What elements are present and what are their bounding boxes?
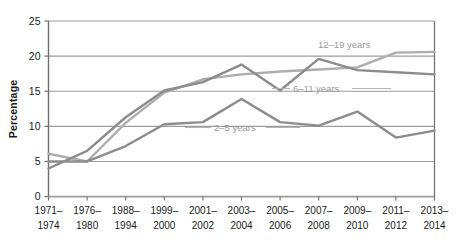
x-tick-label-line1: 2001– xyxy=(189,205,217,216)
x-tick-label-line1: 2005– xyxy=(266,205,294,216)
x-tick-label-line1: 2013– xyxy=(421,205,449,216)
x-tick-label-line1: 2011– xyxy=(382,205,410,216)
x-tick-label-line2: 2008 xyxy=(308,220,331,231)
x-tick-label-line1: 2009– xyxy=(343,205,371,216)
x-tick-label-line2: 2000 xyxy=(153,220,176,231)
x-tick-label-line1: 1988– xyxy=(112,205,140,216)
x-tick-label-line1: 2003– xyxy=(228,205,256,216)
x-tick-label-line2: 2012 xyxy=(385,220,408,231)
y-tick-label: 15 xyxy=(29,85,41,97)
y-tick-label: 20 xyxy=(29,50,41,62)
y-tick-label: 25 xyxy=(29,15,41,27)
series-label-12-19-years: 12–19 years xyxy=(318,39,371,50)
x-tick-label-line2: 2004 xyxy=(230,220,253,231)
x-tick-label-line1: 1999– xyxy=(150,205,178,216)
y-axis-title: Percentage xyxy=(7,80,19,139)
x-tick-label-line2: 2010 xyxy=(346,220,369,231)
x-tick-label-line2: 1974 xyxy=(37,220,60,231)
x-tick-label-line2: 1994 xyxy=(115,220,138,231)
chart-container: Percentage 0510152025 12–19 years6–11 ye… xyxy=(0,0,456,251)
series-label-2-5-years: 2–5 years xyxy=(214,122,256,133)
x-tick-label-line2: 2002 xyxy=(192,220,215,231)
line-chart: Percentage 0510152025 12–19 years6–11 ye… xyxy=(0,0,456,251)
x-tick-label-line2: 2006 xyxy=(269,220,292,231)
x-tick-label-line2: 1980 xyxy=(76,220,99,231)
y-tick-label: 5 xyxy=(35,155,41,167)
y-tick-label: 10 xyxy=(29,120,41,132)
x-tick-label-line2: 2014 xyxy=(423,220,446,231)
series-label-6-11-years: 6–11 years xyxy=(293,83,340,94)
y-tick-label: 0 xyxy=(35,190,41,202)
x-tick-label-line1: 1971– xyxy=(35,205,63,216)
x-tick-label-line1: 2007– xyxy=(305,205,333,216)
x-tick-label-line1: 1976– xyxy=(73,205,101,216)
